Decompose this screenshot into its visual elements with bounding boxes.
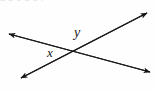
angle-label-y: y <box>74 26 80 40</box>
line-rising-half-upper-right <box>21 13 147 78</box>
angle-label-x: x <box>47 46 53 59</box>
intersecting-lines-svg <box>0 0 156 91</box>
angle-diagram-figure: a b c d e f y x <box>0 0 156 91</box>
